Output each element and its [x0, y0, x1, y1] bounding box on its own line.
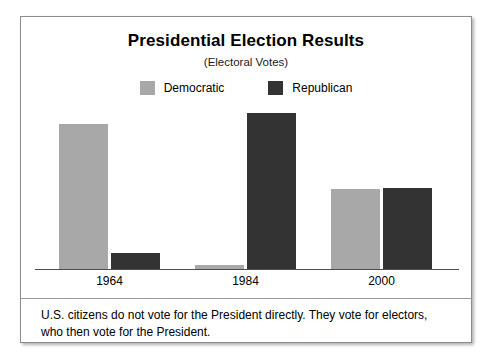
chart-footnote: U.S. citizens do not vote for the Presid… — [41, 307, 446, 340]
x-axis-baseline — [35, 269, 459, 271]
footnote-divider — [21, 298, 471, 299]
legend-swatch-democratic — [140, 81, 155, 95]
legend-label-democratic: Democratic — [164, 81, 225, 95]
plot-area — [29, 112, 465, 270]
chart-title: Presidential Election Results — [21, 31, 471, 51]
legend-label-republican: Republican — [292, 81, 352, 95]
bar-group-1964 — [59, 113, 160, 269]
bar-democratic-2000 — [331, 189, 380, 268]
x-axis-tick-labels: 196419842000 — [29, 274, 465, 292]
bar-republican-1964 — [111, 253, 160, 268]
bar-democratic-1964 — [59, 124, 108, 268]
legend-entry-democratic: Democratic — [140, 81, 225, 95]
legend-entry-republican: Republican — [268, 81, 352, 95]
chart-legend: Democratic Republican — [21, 81, 471, 95]
bar-group-2000 — [331, 113, 432, 269]
legend-swatch-republican — [268, 81, 283, 95]
x-tick-label-1964: 1964 — [59, 274, 160, 288]
bar-republican-2000 — [383, 188, 432, 269]
bar-republican-1984 — [247, 113, 296, 269]
figure-frame: Presidential Election Results (Electoral… — [20, 16, 472, 343]
x-tick-label-1984: 1984 — [195, 274, 296, 288]
x-tick-label-2000: 2000 — [331, 274, 432, 288]
bar-group-1984 — [195, 113, 296, 269]
chart-subtitle: (Electoral Votes) — [21, 56, 471, 68]
